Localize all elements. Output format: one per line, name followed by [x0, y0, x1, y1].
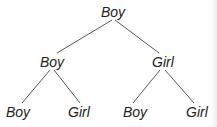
- edge-right-to-rightright: [165, 70, 194, 103]
- edge-root-to-left: [57, 20, 112, 53]
- tree-node-level2-leftleft: Boy: [6, 105, 30, 119]
- tree-node-level2-leftright: Girl: [68, 105, 90, 119]
- edge-root-to-right: [115, 20, 159, 53]
- edge-right-to-rightleft: [133, 70, 160, 103]
- edge-left-to-leftright: [54, 70, 80, 103]
- edge-left-to-leftleft: [22, 70, 50, 103]
- tree-node-level2-rightleft: Boy: [123, 105, 147, 119]
- tree-node-level2-rightright: Girl: [186, 105, 208, 119]
- binary-tree-diagram: Boy Boy Girl Boy Girl Boy Girl: [0, 0, 217, 127]
- tree-node-level1-right: Girl: [152, 55, 174, 69]
- tree-node-level1-left: Boy: [40, 55, 64, 69]
- tree-node-root: Boy: [101, 5, 125, 19]
